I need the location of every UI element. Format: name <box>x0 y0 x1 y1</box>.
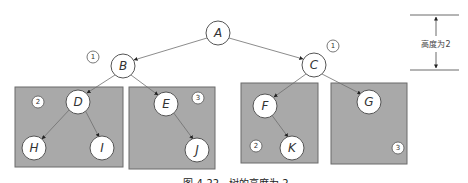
svg-text:3: 3 <box>196 94 200 102</box>
node-c: C <box>302 53 326 77</box>
svg-text:G: G <box>364 95 373 109</box>
level-badge: 1 <box>87 51 99 63</box>
node-k: K <box>280 136 304 160</box>
svg-text:B: B <box>119 59 127 73</box>
svg-text:E: E <box>162 97 170 111</box>
svg-text:2: 2 <box>254 142 258 150</box>
node-b: B <box>111 54 135 78</box>
edge-a-c <box>229 38 303 59</box>
svg-text:1: 1 <box>331 42 335 50</box>
svg-text:I: I <box>100 141 104 155</box>
node-j: J <box>185 138 209 162</box>
node-e: E <box>154 92 178 116</box>
node-f: F <box>253 94 277 118</box>
node-i: I <box>90 136 114 160</box>
svg-text:D: D <box>73 95 82 109</box>
edge-a-b <box>134 38 207 60</box>
node-g: G <box>357 90 381 114</box>
figure-caption: 图 4-22 树的高度为 2 <box>183 177 288 183</box>
svg-text:F: F <box>262 99 270 113</box>
level-badge: 1 <box>327 40 339 52</box>
level-badge: 3 <box>392 142 404 154</box>
level-badge: 3 <box>192 92 204 104</box>
node-h: H <box>22 136 46 160</box>
level-badge: 2 <box>32 96 44 108</box>
svg-text:A: A <box>213 26 222 40</box>
height-annotation: 高度为2 <box>410 15 459 70</box>
svg-text:1: 1 <box>91 53 95 61</box>
svg-text:H: H <box>29 141 38 155</box>
level-badge: 2 <box>250 140 262 152</box>
tree-diagram: A B C D E F G H I J K 1 1 2 3 2 3 高度为2 图… <box>0 0 468 183</box>
svg-text:3: 3 <box>396 144 400 152</box>
svg-text:2: 2 <box>36 98 40 106</box>
height-label: 高度为2 <box>421 39 450 49</box>
svg-text:C: C <box>310 58 319 72</box>
node-a: A <box>206 21 230 45</box>
svg-text:K: K <box>288 141 297 155</box>
node-d: D <box>66 90 90 114</box>
